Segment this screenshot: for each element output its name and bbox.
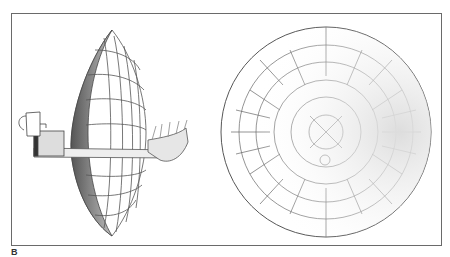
side-view-vessels xyxy=(19,112,64,156)
illustration xyxy=(0,0,450,257)
panel-label: B xyxy=(11,248,18,257)
front-view-dish xyxy=(221,27,431,237)
side-view-dish xyxy=(71,30,146,236)
